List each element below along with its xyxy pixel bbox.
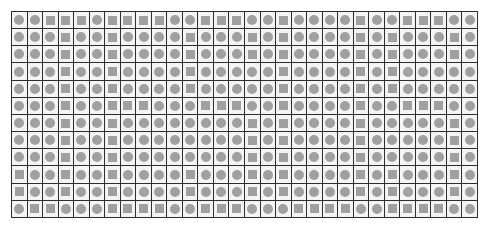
grid-cell[interactable] <box>136 115 151 131</box>
grid-cell[interactable] <box>369 132 384 148</box>
grid-cell[interactable] <box>105 149 120 165</box>
grid-cell[interactable] <box>214 201 229 217</box>
grid-cell[interactable] <box>323 115 338 131</box>
grid-cell[interactable] <box>229 166 244 182</box>
grid-cell[interactable] <box>292 201 307 217</box>
grid-cell[interactable] <box>338 46 353 62</box>
grid-cell[interactable] <box>307 149 322 165</box>
grid-cell[interactable] <box>385 115 400 131</box>
grid-cell[interactable] <box>152 81 167 97</box>
grid-cell[interactable] <box>245 81 260 97</box>
grid-cell[interactable] <box>431 166 446 182</box>
grid-cell[interactable] <box>323 132 338 148</box>
grid-cell[interactable] <box>198 184 213 200</box>
grid-cell[interactable] <box>90 149 105 165</box>
grid-cell[interactable] <box>105 201 120 217</box>
grid-cell[interactable] <box>105 29 120 45</box>
grid-cell[interactable] <box>229 201 244 217</box>
grid-cell[interactable] <box>183 29 198 45</box>
grid-cell[interactable] <box>400 115 415 131</box>
grid-cell[interactable] <box>121 132 136 148</box>
grid-cell[interactable] <box>462 149 477 165</box>
grid-cell[interactable] <box>447 132 462 148</box>
grid-cell[interactable] <box>28 63 43 79</box>
grid-cell[interactable] <box>292 46 307 62</box>
grid-cell[interactable] <box>307 166 322 182</box>
grid-cell[interactable] <box>28 149 43 165</box>
grid-cell[interactable] <box>28 98 43 114</box>
grid-cell[interactable] <box>28 46 43 62</box>
grid-cell[interactable] <box>447 98 462 114</box>
grid-cell[interactable] <box>462 81 477 97</box>
grid-cell[interactable] <box>229 63 244 79</box>
grid-cell[interactable] <box>90 46 105 62</box>
grid-cell[interactable] <box>462 98 477 114</box>
grid-cell[interactable] <box>276 12 291 28</box>
grid-cell[interactable] <box>385 46 400 62</box>
grid-cell[interactable] <box>152 29 167 45</box>
grid-cell[interactable] <box>462 184 477 200</box>
grid-cell[interactable] <box>400 12 415 28</box>
grid-cell[interactable] <box>276 201 291 217</box>
grid-cell[interactable] <box>292 132 307 148</box>
grid-cell[interactable] <box>183 46 198 62</box>
grid-cell[interactable] <box>121 81 136 97</box>
grid-cell[interactable] <box>307 63 322 79</box>
grid-cell[interactable] <box>12 81 27 97</box>
grid-cell[interactable] <box>59 149 74 165</box>
grid-cell[interactable] <box>198 98 213 114</box>
grid-cell[interactable] <box>447 149 462 165</box>
grid-cell[interactable] <box>12 29 27 45</box>
grid-cell[interactable] <box>28 166 43 182</box>
grid-cell[interactable] <box>229 81 244 97</box>
grid-cell[interactable] <box>214 184 229 200</box>
grid-cell[interactable] <box>198 29 213 45</box>
grid-cell[interactable] <box>338 184 353 200</box>
grid-cell[interactable] <box>90 184 105 200</box>
grid-cell[interactable] <box>261 98 276 114</box>
grid-cell[interactable] <box>354 184 369 200</box>
grid-cell[interactable] <box>462 166 477 182</box>
grid-cell[interactable] <box>43 149 58 165</box>
grid-cell[interactable] <box>416 115 431 131</box>
grid-cell[interactable] <box>152 149 167 165</box>
grid-cell[interactable] <box>369 29 384 45</box>
grid-cell[interactable] <box>462 132 477 148</box>
grid-cell[interactable] <box>354 98 369 114</box>
grid-cell[interactable] <box>136 132 151 148</box>
grid-cell[interactable] <box>74 63 89 79</box>
grid-cell[interactable] <box>369 115 384 131</box>
grid-cell[interactable] <box>385 149 400 165</box>
grid-cell[interactable] <box>28 184 43 200</box>
grid-cell[interactable] <box>198 46 213 62</box>
grid-cell[interactable] <box>261 46 276 62</box>
grid-cell[interactable] <box>167 81 182 97</box>
grid-cell[interactable] <box>338 98 353 114</box>
grid-cell[interactable] <box>28 201 43 217</box>
grid-cell[interactable] <box>369 149 384 165</box>
grid-cell[interactable] <box>431 132 446 148</box>
grid-cell[interactable] <box>90 81 105 97</box>
grid-cell[interactable] <box>183 63 198 79</box>
grid-cell[interactable] <box>276 98 291 114</box>
grid-cell[interactable] <box>447 81 462 97</box>
grid-cell[interactable] <box>245 166 260 182</box>
grid-cell[interactable] <box>214 149 229 165</box>
grid-cell[interactable] <box>323 201 338 217</box>
grid-cell[interactable] <box>43 46 58 62</box>
grid-cell[interactable] <box>307 81 322 97</box>
grid-cell[interactable] <box>245 29 260 45</box>
grid-cell[interactable] <box>416 184 431 200</box>
grid-cell[interactable] <box>183 12 198 28</box>
grid-cell[interactable] <box>245 149 260 165</box>
grid-cell[interactable] <box>12 132 27 148</box>
grid-cell[interactable] <box>447 63 462 79</box>
grid-cell[interactable] <box>121 184 136 200</box>
grid-cell[interactable] <box>245 98 260 114</box>
grid-cell[interactable] <box>43 81 58 97</box>
grid-cell[interactable] <box>152 184 167 200</box>
grid-cell[interactable] <box>152 63 167 79</box>
grid-cell[interactable] <box>307 46 322 62</box>
grid-cell[interactable] <box>28 81 43 97</box>
grid-cell[interactable] <box>90 29 105 45</box>
